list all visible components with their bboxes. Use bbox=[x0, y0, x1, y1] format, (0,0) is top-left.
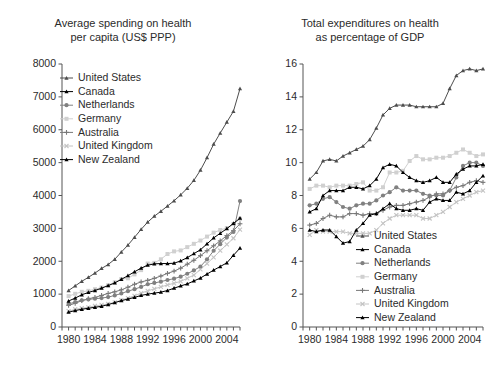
legend-item-canada[interactable]: Canada bbox=[60, 85, 115, 97]
x-tick-label: 1992 bbox=[136, 333, 160, 345]
series-germany bbox=[67, 217, 242, 298]
legend-label: United States bbox=[374, 229, 437, 241]
y-tick-label: 7000 bbox=[33, 90, 57, 102]
legend-label: Germany bbox=[374, 270, 418, 282]
x-tick-label: 1984 bbox=[83, 333, 107, 345]
legend-label: Canada bbox=[374, 243, 411, 255]
legend-label: Canada bbox=[78, 85, 115, 97]
legend-label: Australia bbox=[374, 284, 415, 296]
legend-item-netherlands[interactable]: Netherlands bbox=[60, 98, 135, 110]
legend-item-canada[interactable]: Canada bbox=[356, 243, 411, 255]
legend-item-germany[interactable]: Germany bbox=[60, 112, 122, 124]
x-tick-label: 1988 bbox=[110, 333, 134, 345]
y-tick-label: 3000 bbox=[33, 222, 57, 234]
y-tick-label: 0 bbox=[291, 320, 297, 332]
series-united_kingdom bbox=[67, 228, 242, 314]
y-tick-label: 4000 bbox=[33, 189, 57, 201]
y-tick-label: 16 bbox=[285, 57, 297, 69]
x-tick-label: 1980 bbox=[57, 333, 81, 345]
y-tick-label: 8000 bbox=[33, 57, 57, 69]
legend-item-united_kingdom[interactable]: United Kingdom bbox=[60, 139, 153, 151]
legend-label: United Kingdom bbox=[78, 139, 153, 151]
x-tick-label: 1988 bbox=[351, 333, 375, 345]
chart-panel-percent-gdp: Total expenditures on health as percenta… bbox=[247, 0, 493, 365]
legend-label: Australia bbox=[78, 126, 119, 138]
legend-label: United Kingdom bbox=[374, 297, 449, 309]
y-tick-label: 12 bbox=[285, 123, 297, 135]
legend-label: United States bbox=[78, 71, 141, 83]
y-tick-label: 6000 bbox=[33, 123, 57, 135]
legend-item-netherlands[interactable]: Netherlands bbox=[356, 256, 431, 268]
x-tick-label: 1996 bbox=[162, 333, 186, 345]
legend-item-new_zealand[interactable]: New Zealand bbox=[356, 311, 436, 323]
y-tick-label: 10 bbox=[285, 156, 297, 168]
legend-item-australia[interactable]: Australia bbox=[356, 284, 415, 296]
plot-area-per-capita: 0100020003000400050006000700080001980198… bbox=[0, 0, 246, 365]
legend-label: New Zealand bbox=[78, 153, 140, 165]
chart-panel-per-capita: Average spending on health per capita (U… bbox=[0, 0, 246, 365]
y-tick-label: 0 bbox=[50, 320, 56, 332]
x-tick-label: 2004 bbox=[458, 333, 482, 345]
legend-item-germany[interactable]: Germany bbox=[356, 270, 418, 282]
series-united_states bbox=[308, 67, 486, 181]
y-tick-label: 2000 bbox=[33, 255, 57, 267]
y-tick-label: 4 bbox=[291, 255, 297, 267]
y-tick-label: 14 bbox=[285, 90, 297, 102]
legend-label: New Zealand bbox=[374, 311, 436, 323]
y-tick-label: 5000 bbox=[33, 156, 57, 168]
legend-item-united_states[interactable]: United States bbox=[60, 71, 141, 83]
y-tick-label: 1000 bbox=[33, 287, 57, 299]
x-tick-label: 2000 bbox=[189, 333, 213, 345]
chart-legend: United StatesCanadaNetherlandsGermanyAus… bbox=[356, 229, 449, 323]
x-tick-label: 1984 bbox=[325, 333, 349, 345]
y-tick-label: 8 bbox=[291, 189, 297, 201]
x-tick-label: 1992 bbox=[378, 333, 402, 345]
legend-label: Germany bbox=[78, 112, 122, 124]
y-tick-label: 6 bbox=[291, 222, 297, 234]
y-tick-label: 2 bbox=[291, 287, 297, 299]
x-tick-label: 1996 bbox=[405, 333, 429, 345]
legend-item-new_zealand[interactable]: New Zealand bbox=[60, 153, 140, 165]
x-tick-label: 2004 bbox=[215, 333, 239, 345]
chart-legend: United StatesCanadaNetherlandsGermanyAus… bbox=[60, 71, 153, 165]
legend-label: Netherlands bbox=[374, 256, 431, 268]
x-tick-label: 2000 bbox=[431, 333, 455, 345]
legend-item-australia[interactable]: Australia bbox=[60, 126, 119, 138]
legend-label: Netherlands bbox=[78, 98, 135, 110]
plot-area-percent-gdp: 0246810121416198019841988199219962000200… bbox=[247, 0, 493, 365]
health-spending-figure: Average spending on health per capita (U… bbox=[0, 0, 493, 365]
x-tick-label: 1980 bbox=[298, 333, 322, 345]
legend-item-united_kingdom[interactable]: United Kingdom bbox=[356, 297, 449, 309]
